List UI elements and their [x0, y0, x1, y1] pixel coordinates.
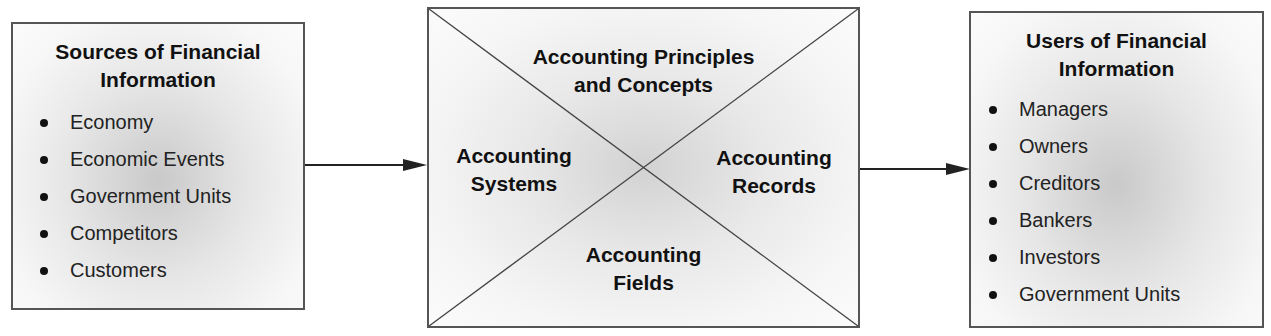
users-list: Managers Owners Creditors Bankers Invest… — [989, 91, 1262, 313]
arrow-head-icon — [403, 159, 427, 171]
sources-list: Economy Economic Events Government Units… — [40, 104, 303, 289]
arrow-head-icon — [946, 163, 970, 175]
label-line: Accounting — [429, 241, 858, 269]
bullet-icon — [989, 254, 997, 262]
bullet-icon — [40, 119, 48, 127]
list-item: Customers — [40, 252, 303, 289]
users-title-line1: Users of Financial — [971, 27, 1262, 55]
list-item-label: Customers — [70, 252, 167, 289]
list-item-label: Economic Events — [70, 141, 225, 178]
bullet-icon — [989, 291, 997, 299]
label-line: Accounting — [439, 142, 589, 170]
users-title-line2: Information — [971, 55, 1262, 83]
list-item-label: Managers — [1019, 91, 1108, 128]
bullet-icon — [989, 217, 997, 225]
accounting-box: Accounting Principles and Concepts Accou… — [427, 7, 860, 328]
bullet-icon — [40, 156, 48, 164]
arrow-accounting-to-users — [860, 168, 948, 170]
bullet-icon — [989, 143, 997, 151]
list-item-label: Government Units — [1019, 276, 1180, 313]
arrow-sources-to-accounting — [305, 164, 405, 166]
list-item-label: Creditors — [1019, 165, 1100, 202]
label-line: Records — [699, 172, 849, 200]
list-item-label: Economy — [70, 104, 153, 141]
list-item-label: Investors — [1019, 239, 1100, 276]
list-item-label: Government Units — [70, 178, 231, 215]
label-line: and Concepts — [429, 71, 858, 99]
accounting-records-label: Accounting Records — [699, 144, 849, 200]
list-item-label: Owners — [1019, 128, 1088, 165]
list-item: Economy — [40, 104, 303, 141]
label-line: Accounting — [699, 144, 849, 172]
users-box: Users of Financial Information Managers … — [969, 11, 1264, 328]
users-title: Users of Financial Information — [971, 27, 1262, 83]
list-item: Government Units — [989, 276, 1262, 313]
list-item: Economic Events — [40, 141, 303, 178]
sources-title: Sources of Financial Information — [13, 38, 303, 94]
label-line: Accounting Principles — [429, 43, 858, 71]
accounting-fields-label: Accounting Fields — [429, 241, 858, 297]
bullet-icon — [40, 267, 48, 275]
list-item: Investors — [989, 239, 1262, 276]
list-item: Competitors — [40, 215, 303, 252]
accounting-systems-label: Accounting Systems — [439, 142, 589, 198]
list-item: Owners — [989, 128, 1262, 165]
list-item: Bankers — [989, 202, 1262, 239]
label-line: Fields — [429, 269, 858, 297]
bullet-icon — [989, 180, 997, 188]
label-line: Systems — [439, 170, 589, 198]
bullet-icon — [40, 193, 48, 201]
bullet-icon — [989, 106, 997, 114]
list-item: Managers — [989, 91, 1262, 128]
sources-title-line1: Sources of Financial — [13, 38, 303, 66]
sources-title-line2: Information — [13, 66, 303, 94]
bullet-icon — [40, 230, 48, 238]
list-item-label: Bankers — [1019, 202, 1092, 239]
sources-box: Sources of Financial Information Economy… — [11, 22, 305, 310]
list-item: Government Units — [40, 178, 303, 215]
list-item: Creditors — [989, 165, 1262, 202]
list-item-label: Competitors — [70, 215, 178, 252]
accounting-principles-label: Accounting Principles and Concepts — [429, 43, 858, 99]
